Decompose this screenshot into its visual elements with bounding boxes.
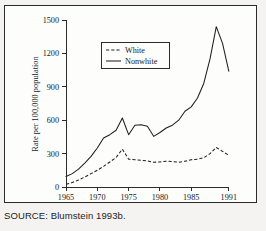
- legend-label-white: White: [125, 46, 145, 55]
- y-axis-ticks: 0 300 600 900 1200 1500: [43, 16, 66, 192]
- series-white-line: [66, 147, 229, 184]
- x-tick-label-1970: 1970: [89, 193, 105, 201]
- y-axis-title: Rate per 100,000 population: [31, 56, 40, 152]
- legend-label-nonwhite: Nonwhite: [125, 57, 158, 66]
- x-tick-label-1975: 1975: [120, 193, 136, 201]
- chart-legend: White Nonwhite: [101, 42, 169, 68]
- source-note: SOURCE: Blumstein 1993b.: [4, 210, 262, 221]
- chart-frame: 0 300 600 900 1200 1500 1965 1970 1975 1…: [4, 5, 257, 203]
- y-tick-label-0: 0: [55, 183, 59, 192]
- line-chart: 0 300 600 900 1200 1500 1965 1970 1975 1…: [5, 6, 255, 201]
- x-axis-ticks: 1965 1970 1975 1980 1985 1991: [58, 187, 237, 201]
- y-tick-label-1500: 1500: [43, 16, 59, 25]
- x-tick-label-1985: 1985: [183, 193, 199, 201]
- x-tick-label-1965: 1965: [58, 193, 74, 201]
- y-tick-label-1200: 1200: [43, 49, 59, 58]
- x-tick-label-1991: 1991: [221, 193, 237, 201]
- y-tick-label-300: 300: [47, 150, 59, 159]
- y-tick-label-900: 900: [47, 83, 59, 92]
- x-axis-title: Year: [139, 200, 154, 201]
- y-tick-label-600: 600: [47, 116, 59, 125]
- figure-container: 0 300 600 900 1200 1500 1965 1970 1975 1…: [0, 0, 266, 231]
